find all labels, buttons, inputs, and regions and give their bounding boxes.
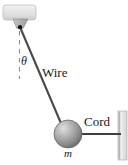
physics-diagram: θ Wire Cord m (0, 0, 128, 165)
angle-theta-label: θ (21, 55, 27, 67)
cord-label: Cord (84, 115, 110, 128)
wall-support (118, 111, 127, 160)
ceiling-support (3, 5, 36, 20)
mass-label: m (64, 148, 72, 159)
wire-label: Wire (42, 66, 67, 79)
mass-sphere (54, 120, 82, 148)
diagram-canvas (0, 0, 128, 165)
pivot-point-dot (18, 25, 22, 29)
